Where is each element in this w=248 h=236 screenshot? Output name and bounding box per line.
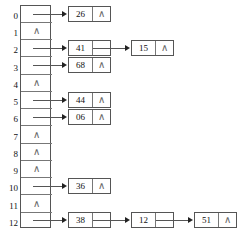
- slot-index-label: 12: [0, 219, 18, 228]
- bucket-slot-1[interactable]: ∧: [21, 23, 52, 40]
- bucket-slot-8[interactable]: ∧: [21, 144, 52, 161]
- null-glyph: ∧: [21, 164, 52, 174]
- node-value: 41: [69, 41, 93, 55]
- node-null-pointer: ∧: [93, 179, 110, 193]
- arrow-head-slot-2: [62, 45, 67, 51]
- arrow-head-slot-6: [62, 114, 67, 120]
- list-node[interactable]: 36 ∧: [68, 178, 111, 194]
- slot-index-label: 4: [0, 81, 18, 90]
- slot-index-label: 2: [0, 46, 18, 55]
- connector-line-slot-10: [33, 186, 63, 187]
- node-null-pointer: ∧: [93, 110, 110, 124]
- connector-line-slot-2: [33, 48, 63, 49]
- list-node[interactable]: 06 ∧: [68, 109, 111, 125]
- connector-line-node-41-to-15: [93, 48, 126, 49]
- node-null-pointer: ∧: [93, 93, 110, 107]
- list-node[interactable]: 44 ∧: [68, 92, 111, 108]
- list-node[interactable]: 26 ∧: [68, 6, 111, 22]
- slot-index-label: 8: [0, 150, 18, 159]
- null-glyph: ∧: [21, 130, 52, 140]
- slot-index-label: 9: [0, 167, 18, 176]
- arrow-head-slot-5: [62, 97, 67, 103]
- connector-line-slot-3: [33, 65, 63, 66]
- node-value: 36: [69, 179, 93, 193]
- connector-line-slot-0: [33, 14, 63, 15]
- bucket-slot-4[interactable]: ∧: [21, 75, 52, 92]
- null-glyph: ∧: [21, 199, 52, 209]
- node-null-pointer: ∧: [156, 41, 173, 55]
- connector-line-node-12-to-51: [156, 220, 189, 221]
- node-value: 15: [132, 41, 156, 55]
- bucket-slot-9[interactable]: ∧: [21, 161, 52, 178]
- slot-index-label: 6: [0, 115, 18, 124]
- slot-index-label: 10: [0, 184, 18, 193]
- list-node[interactable]: 51 ∧: [194, 212, 237, 228]
- node-null-pointer: ∧: [93, 58, 110, 72]
- list-node[interactable]: 15 ∧: [131, 40, 174, 56]
- connector-line-slot-12: [33, 220, 63, 221]
- arrow-head-node-38-to-12: [125, 217, 130, 223]
- null-glyph: ∧: [21, 78, 52, 88]
- arrow-head-node-41-to-15: [125, 45, 130, 51]
- slot-index-label: 1: [0, 29, 18, 38]
- slot-index-label: 5: [0, 98, 18, 107]
- bucket-slot-11[interactable]: ∧: [21, 195, 52, 213]
- hash-table-diagram: 0 1 2 3 4 5 6 7 8 9 10 11 12 ∧ ∧ ∧ ∧ ∧ ∧: [0, 0, 248, 236]
- null-glyph: ∧: [21, 147, 52, 157]
- node-value: 51: [195, 213, 219, 227]
- node-null-pointer: ∧: [93, 7, 110, 21]
- node-value: 06: [69, 110, 93, 124]
- node-value: 68: [69, 58, 93, 72]
- list-node[interactable]: 68 ∧: [68, 57, 111, 73]
- arrow-head-slot-10: [62, 183, 67, 189]
- arrow-head-slot-0: [62, 11, 67, 17]
- connector-line-slot-5: [33, 100, 63, 101]
- arrow-head-slot-12: [62, 217, 67, 223]
- slot-index-label: 0: [0, 12, 18, 21]
- bucket-slot-3[interactable]: [21, 57, 52, 75]
- slot-index-label: 11: [0, 202, 18, 211]
- null-glyph: ∧: [21, 26, 52, 36]
- connector-line-slot-6: [33, 117, 63, 118]
- bucket-slot-7[interactable]: ∧: [21, 126, 52, 144]
- connector-line-node-38-to-12: [93, 220, 126, 221]
- node-null-pointer: ∧: [219, 213, 236, 227]
- node-value: 44: [69, 93, 93, 107]
- slot-index-label: 7: [0, 133, 18, 142]
- slot-index-label: 3: [0, 64, 18, 73]
- node-value: 26: [69, 7, 93, 21]
- arrow-head-node-12-to-51: [188, 217, 193, 223]
- node-value: 38: [69, 213, 93, 227]
- arrow-head-slot-3: [62, 62, 67, 68]
- node-value: 12: [132, 213, 156, 227]
